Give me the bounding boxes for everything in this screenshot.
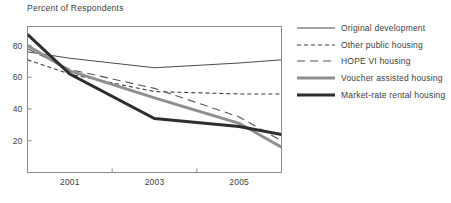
x-tick-label: 2003 xyxy=(145,177,165,187)
y-tick-label: 60 xyxy=(13,72,23,82)
legend-item: Market-rate rental housing xyxy=(297,86,451,103)
legend-item: Other public housing xyxy=(297,37,451,54)
legend-item-label: Voucher assisted housing xyxy=(341,73,443,83)
x-tick-label: 2001 xyxy=(60,177,80,187)
legend-swatch-icon xyxy=(297,21,337,35)
legend-item-label: Original development xyxy=(341,23,425,33)
legend-item: Original development xyxy=(297,20,451,37)
legend-swatch-icon xyxy=(297,88,337,102)
legend-item-label: Market-rate rental housing xyxy=(341,90,445,100)
legend-item-label: Other public housing xyxy=(341,40,423,50)
x-tick-label: 2005 xyxy=(229,177,249,187)
x-axis-ticks xyxy=(112,169,197,173)
series-line xyxy=(28,52,282,68)
legend-item: Voucher assisted housing xyxy=(297,70,451,87)
chart-figure: Percent of Respondents 20406080 20012003… xyxy=(0,0,451,203)
x-axis-tick-labels: 200120032005 xyxy=(60,177,249,187)
legend-item: HOPE VI housing xyxy=(297,53,451,70)
y-tick-label: 40 xyxy=(13,104,23,114)
axis-frame xyxy=(28,27,282,173)
y-tick-label: 80 xyxy=(13,41,23,51)
chart-legend: Original developmentOther public housing… xyxy=(297,20,451,103)
series-lines xyxy=(28,34,282,147)
y-tick-label: 20 xyxy=(13,136,23,146)
legend-item-label: HOPE VI housing xyxy=(341,56,411,66)
legend-swatch-icon xyxy=(297,54,337,68)
y-axis-tick-labels: 20406080 xyxy=(13,41,23,146)
legend-swatch-icon xyxy=(297,38,337,52)
series-line xyxy=(28,46,282,148)
legend-swatch-icon xyxy=(297,71,337,85)
